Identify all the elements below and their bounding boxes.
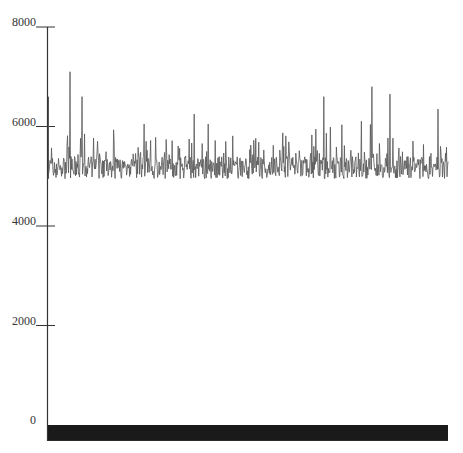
y-tick-label: 4000 (12, 214, 36, 228)
y-tick-label: 2000 (12, 314, 36, 328)
signal-line (48, 72, 448, 179)
y-tick-label: 0 (30, 413, 36, 427)
zero-band-fill (48, 425, 448, 441)
y-tick-label: 8000 (12, 15, 36, 29)
y-ticks: 02000400060008000 (12, 15, 55, 427)
line-chart: 02000400060008000 (0, 0, 463, 453)
y-tick-label: 6000 (12, 115, 36, 129)
near-zero-band (48, 425, 448, 441)
signal-series (48, 72, 448, 179)
